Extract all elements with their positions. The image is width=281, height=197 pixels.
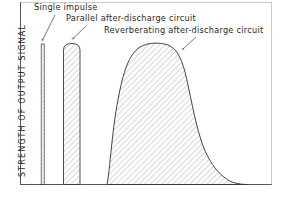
- series-parallel-circuit: [64, 44, 81, 185]
- annotation-label-single-impulse: Single impulse: [34, 2, 98, 12]
- leader-line-parallel: [73, 26, 86, 39]
- series-single-impulse: [41, 44, 44, 185]
- annotation-label-parallel-circuit: Parallel after-discharge circuit: [66, 13, 196, 23]
- figure-container: Single impulse Parallel after-discharge …: [0, 0, 281, 197]
- leader-line-reverberating: [183, 37, 196, 49]
- annotation-label-reverberating-circuit: Reverberating after-discharge circuit: [104, 25, 263, 35]
- y-axis-label: STRENGTH OF OUTPUT SIGNAL: [18, 21, 27, 181]
- series-reverberating-circuit: [107, 43, 248, 184]
- leader-line-single: [43, 15, 56, 40]
